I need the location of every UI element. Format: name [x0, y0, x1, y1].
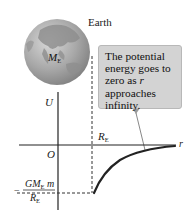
min-energy-sign: −	[14, 186, 20, 196]
callout-line-2: energy goes to	[105, 62, 178, 74]
callout-line-5: infinity.	[105, 99, 178, 111]
callout-line-1: The potential	[105, 50, 178, 62]
earth-label: Earth	[88, 17, 112, 28]
potential-energy-curve	[94, 146, 175, 193]
callout-pointer	[132, 108, 145, 150]
callout-box: The potential energy goes to zero as r a…	[98, 45, 182, 109]
origin-label: O	[47, 149, 55, 160]
min-energy-denominator: RE	[30, 193, 40, 205]
earth-radius-label: RE	[98, 131, 109, 144]
callout-line-3: zero as r	[105, 74, 178, 86]
min-energy-numerator: GME m	[25, 179, 54, 191]
r-axis-label: r	[179, 139, 183, 149]
u-axis-label: U	[45, 97, 53, 108]
earth-mass-label: ME	[48, 52, 61, 65]
callout-line-4: approaches	[105, 87, 178, 99]
